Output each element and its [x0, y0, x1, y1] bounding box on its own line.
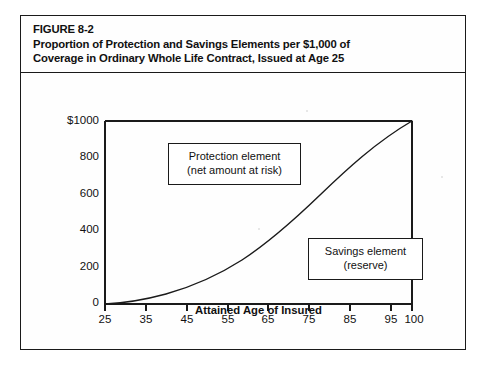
x-axis-title: Attained Age of Insured [105, 304, 412, 316]
figure-title-block: FIGURE 8-2 Proportion of Protection and … [21, 16, 465, 73]
callout-savings-line-2: (reserve) [309, 258, 422, 272]
callout-protection-line-1: Protection element [169, 149, 300, 163]
figure-frame: FIGURE 8-2 Proportion of Protection and … [20, 15, 466, 350]
scan-speckle [441, 176, 443, 178]
scan-speckle [258, 228, 260, 230]
figure-title-line-2: Coverage in Ordinary Whole Life Contract… [33, 51, 455, 66]
y-tick-label-600: 600 [45, 187, 99, 199]
figure-title-line-1: Proportion of Protection and Savings Ele… [33, 37, 455, 52]
y-tick-label-0: 0 [45, 296, 99, 308]
y-tick-label-400: 400 [45, 223, 99, 235]
callout-protection-element: Protection element (net amount at risk) [168, 143, 301, 185]
chart-region: $1000 800 600 400 200 0 25 35 45 55 65 7… [21, 80, 465, 351]
scan-speckle [306, 110, 308, 112]
callout-protection-line-2: (net amount at risk) [169, 163, 300, 177]
callout-savings-element: Savings element (reserve) [308, 238, 423, 280]
y-tick-label-1000: $1000 [45, 114, 99, 126]
y-tick-label-800: 800 [45, 150, 99, 162]
y-tick-label-200: 200 [45, 260, 99, 272]
callout-savings-line-1: Savings element [309, 244, 422, 258]
figure-label: FIGURE 8-2 [33, 22, 455, 37]
